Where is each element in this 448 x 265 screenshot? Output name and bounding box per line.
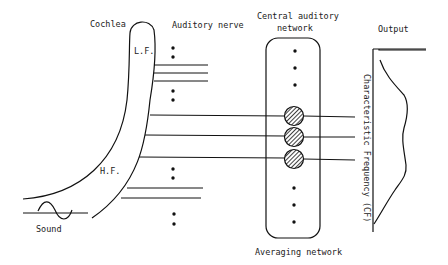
cf-axis-label: Characteristic Frequency (CF)	[363, 74, 372, 222]
high-frequency-label: H.F.	[100, 167, 120, 176]
network-unit-3	[285, 150, 304, 169]
nerve-fiber-1	[150, 115, 285, 116]
averaging-network-label: Averaging network	[255, 248, 342, 257]
output-curve	[374, 60, 407, 224]
diagram-canvas	[0, 0, 448, 265]
network-unit-2	[285, 128, 304, 147]
auditory-nerve-label: Auditory nerve	[172, 21, 244, 30]
low-frequency-label: L.F.	[134, 47, 154, 56]
sound-wave-icon	[38, 202, 72, 219]
central-network-label-line2: network	[277, 24, 313, 33]
cochlea-label: Cochlea	[90, 20, 126, 29]
output-label: Output	[378, 25, 409, 34]
sound-label: Sound	[36, 225, 62, 234]
nerve-fiber-2	[145, 135, 285, 136]
network-unit-1	[285, 107, 304, 126]
output-axes	[373, 49, 426, 232]
nerve-fiber-3	[139, 157, 285, 158]
central-network-label-line1: Central auditory	[257, 12, 339, 21]
